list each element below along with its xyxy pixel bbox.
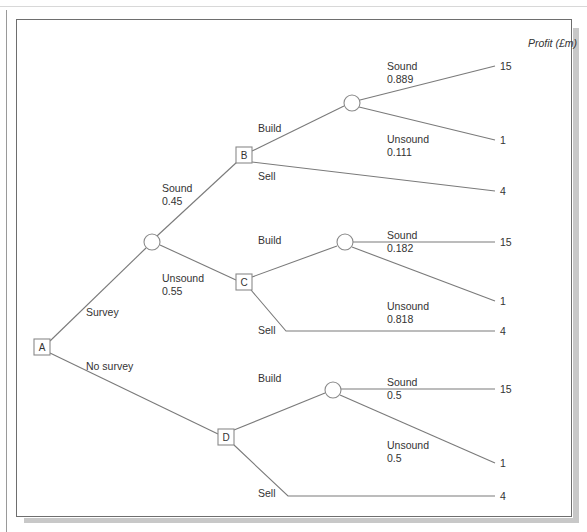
- branch-b-unsound-prob: 0.111: [387, 146, 412, 158]
- chance-node-survey: [144, 234, 160, 250]
- svg-text:D: D: [222, 432, 229, 443]
- branch-d-unsound-prob: 0.5: [387, 452, 402, 464]
- payoff: 1: [500, 457, 506, 469]
- payoff: 1: [500, 295, 506, 307]
- payoff: 15: [500, 383, 512, 395]
- branch-d-build: Build: [258, 372, 282, 384]
- branch-b-sell: Sell: [258, 170, 276, 182]
- branch-c-build: Build: [258, 234, 282, 246]
- svg-text:B: B: [241, 150, 248, 161]
- chance-node-d-build: [325, 382, 341, 398]
- decision-node-d: D: [218, 429, 234, 445]
- svg-text:C: C: [240, 277, 247, 288]
- branch-c-unsound-label: Unsound: [387, 300, 429, 312]
- branch-d-sell: Sell: [258, 487, 276, 499]
- payoff: 4: [500, 490, 506, 502]
- payoff: 1: [500, 134, 506, 146]
- branch-sound-label: Sound: [162, 182, 193, 194]
- decision-node-c: C: [236, 274, 252, 290]
- payoff: 4: [500, 325, 506, 337]
- payoff: 15: [500, 236, 512, 248]
- chance-node-c-build: [337, 234, 353, 250]
- branch-c-unsound-prob: 0.818: [387, 313, 413, 325]
- branch-c-sell: Sell: [258, 324, 276, 336]
- branch-c-sound-prob: 0.182: [387, 242, 413, 254]
- branch-survey: Survey: [86, 306, 119, 318]
- branch-d-sound-label: Sound: [387, 376, 418, 388]
- decision-node-a: A: [34, 339, 50, 355]
- decision-node-b: B: [236, 147, 252, 163]
- branch-b-sound-label: Sound: [387, 60, 418, 72]
- branch-d-sound-prob: 0.5: [387, 389, 402, 401]
- branch-no-survey: No survey: [86, 360, 134, 372]
- payoff: 15: [500, 60, 512, 72]
- branch-unsound-label: Unsound: [162, 272, 204, 284]
- branch-c-sound-label: Sound: [387, 229, 418, 241]
- svg-text:A: A: [39, 342, 46, 353]
- branch-unsound-prob: 0.55: [162, 285, 183, 297]
- profit-header: Profit (£m): [528, 37, 577, 49]
- branch-b-build: Build: [258, 122, 282, 134]
- chance-node-b-build: [344, 95, 360, 111]
- branch-d-unsound-label: Unsound: [387, 439, 429, 451]
- branch-b-sound-prob: 0.889: [387, 73, 413, 85]
- decision-tree: A B C D Profit (£m) Survey No survey Sou…: [0, 0, 587, 532]
- branch-sound-prob: 0.45: [162, 195, 183, 207]
- payoff: 4: [500, 185, 506, 197]
- branch-b-unsound-label: Unsound: [387, 133, 429, 145]
